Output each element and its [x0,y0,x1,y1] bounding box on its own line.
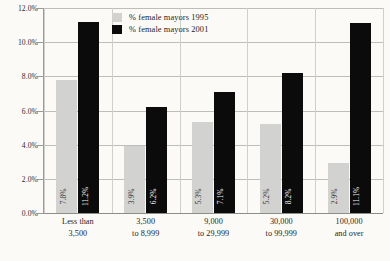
plot-area: 7.8%11.2%3.9%6.2%5.3%7.1%5.2%8.2%2.9%11.… [44,8,383,213]
x-axis-label-line: 9,000 [204,217,223,226]
grouped-bar-chart: 12.0%10.0%8.0%6.0%4.0%2.0%0.0% 7.8%11.2%… [0,0,390,261]
bar-value-label: 3.9% [127,188,134,204]
bar-group: 3.9%6.2% [112,8,180,213]
x-axis-label: 3,500to 8,999 [112,216,180,239]
bar-value-label: 7.1% [217,188,224,204]
bar[interactable]: 5.3% [192,122,213,213]
bar-value-label: 11.2% [81,186,88,205]
x-axis-label: 100,000and over [315,216,383,239]
y-axis-tick-label: 4.0% [2,140,38,149]
bar-groups: 7.8%11.2%3.9%6.2%5.3%7.1%5.2%8.2%2.9%11.… [44,8,383,213]
legend-swatch-icon [112,25,122,34]
bar[interactable]: 11.1% [350,23,371,213]
x-axis-label-line: to 8,999 [112,228,180,240]
legend-label: % female mayors 1995 [129,13,208,22]
bar-value-label: 2.9% [331,188,338,204]
x-axis-label: Less than3,500 [44,216,112,239]
y-axis-tick-label: 0.0% [2,209,38,218]
category-separator [383,8,384,213]
bar[interactable]: 8.2% [282,73,303,213]
legend-label: % female mayors 2001 [129,25,208,34]
legend-item[interactable]: % female mayors 2001 [112,25,208,34]
x-axis-label-line: and over [315,228,383,240]
x-axis-label: 9,000to 29,999 [180,216,248,239]
bar-value-label: 8.2% [285,188,292,204]
bar[interactable]: 6.2% [146,107,167,213]
x-axis-label: 30,000to 99,999 [247,216,315,239]
bar[interactable]: 5.2% [260,124,281,213]
bar[interactable]: 11.2% [78,22,99,213]
y-axis-tick-label: 6.0% [2,106,38,115]
y-axis-tick-label: 8.0% [2,72,38,81]
x-axis-label-line: 3,500 [136,217,155,226]
bar-group: 2.9%11.1% [315,8,383,213]
y-axis-tick-label: 10.0% [2,38,38,47]
bar[interactable]: 2.9% [328,163,349,213]
bar[interactable]: 3.9% [124,146,145,213]
bar[interactable]: 7.8% [56,80,77,213]
bar-value-label: 7.8% [59,188,66,204]
bar-group: 5.2%8.2% [247,8,315,213]
bar-group: 5.3%7.1% [180,8,248,213]
x-axis-label-line: Less than [62,217,94,226]
bar-value-label: 11.1% [353,186,360,205]
legend-swatch-icon [112,13,122,22]
gridline-0.0 [44,213,383,214]
x-axis-label-line: 3,500 [44,228,112,240]
x-axis-label-line: 30,000 [270,217,293,226]
x-axis-label-line: to 99,999 [247,228,315,240]
bar-value-label: 6.2% [149,188,156,204]
y-axis-tick-label: 2.0% [2,174,38,183]
x-axis-label-line: 100,000 [336,217,363,226]
x-axis-category-labels: Less than3,5003,500to 8,9999,000to 29,99… [44,216,383,239]
bar-group: 7.8%11.2% [44,8,112,213]
bar-value-label: 5.2% [263,188,270,204]
bar[interactable]: 7.1% [214,92,235,213]
chart-legend: % female mayors 1995% female mayors 2001 [112,13,208,34]
y-axis-tick-label: 12.0% [2,4,38,13]
legend-item[interactable]: % female mayors 1995 [112,13,208,22]
x-axis-label-line: to 29,999 [180,228,248,240]
bar-value-label: 5.3% [195,188,202,204]
